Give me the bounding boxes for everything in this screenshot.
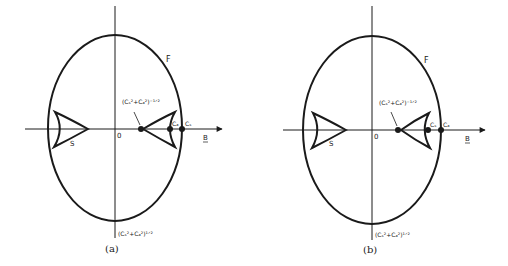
point-inner — [138, 126, 144, 132]
label-point-near: Cₛ — [430, 121, 436, 128]
label-bottom: (Cₛ²+Cₐ²)¹ᐟ² — [375, 231, 410, 238]
figure-canvas: F S 0 B (Cₛ²+Cₐ²)⁻¹ᐟ² Cₐ Cₛ (Cₛ²+Cₐ²)¹ᐟ²… — [0, 0, 508, 266]
label-inner-point: (Cₛ²+Cₐ²)⁻¹ᐟ² — [122, 98, 161, 105]
label-origin: 0 — [117, 132, 121, 140]
label-point-near: Cₐ — [172, 120, 179, 127]
panel-a: F S 0 B (Cₛ²+Cₐ²)⁻¹ᐟ² Cₐ Cₛ (Cₛ²+Cₐ²)¹ᐟ²… — [25, 6, 222, 254]
label-f: F — [424, 56, 429, 65]
leader-arrow — [134, 112, 140, 125]
label-axis-b: B — [203, 134, 208, 142]
point-inner — [395, 127, 401, 133]
caption-a: (a) — [105, 243, 119, 254]
label-inner-point: (Cₛ²+Cₐ²)⁻¹ᐟ² — [379, 99, 418, 106]
label-s: S — [70, 140, 75, 148]
label-point-far: Cₐ — [443, 121, 450, 128]
label-axis-b: B — [465, 135, 470, 143]
label-s: S — [329, 140, 334, 148]
label-point-far: Cₛ — [185, 120, 191, 127]
label-f: F — [166, 55, 171, 64]
panel-b: F S 0 B (Cₛ²+Cₐ²)⁻¹ᐟ² Cₛ Cₐ (Cₛ²+Cₐ²)¹ᐟ²… — [283, 6, 485, 255]
caption-b: (b) — [363, 244, 377, 255]
label-origin: 0 — [374, 133, 378, 141]
leader-arrow — [391, 112, 397, 126]
label-bottom: (Cₛ²+Cₐ²)¹ᐟ² — [118, 230, 153, 237]
